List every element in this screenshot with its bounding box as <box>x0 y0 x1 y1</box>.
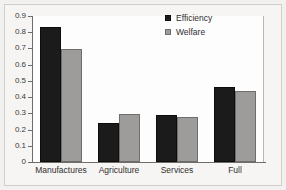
bar-welfare[interactable] <box>177 117 198 162</box>
legend-swatch-efficiency-icon <box>165 15 171 21</box>
legend-swatch-welfare-icon <box>165 29 171 35</box>
y-axis-tick-label: 0.2 <box>15 124 26 135</box>
bar-efficiency[interactable] <box>156 115 177 162</box>
plot-region <box>32 16 264 162</box>
chart-figure-frame: 00.10.20.30.40.50.60.70.80.9 Manufacture… <box>4 4 282 186</box>
category-label: Services <box>148 165 206 176</box>
y-axis-tick-label: 0.6 <box>15 59 26 70</box>
chart-legend: Efficiency Welfare <box>165 12 212 40</box>
y-axis-tick-mark <box>28 16 32 17</box>
y-axis-tick-label: 0.3 <box>15 107 26 118</box>
y-axis-tick-mark <box>28 146 32 147</box>
y-axis-tick-mark <box>28 32 32 33</box>
legend-item-welfare[interactable]: Welfare <box>165 26 212 38</box>
bar-welfare[interactable] <box>119 114 140 162</box>
bar-efficiency[interactable] <box>98 123 119 162</box>
bar-efficiency[interactable] <box>214 87 235 162</box>
y-axis-tick-mark <box>28 130 32 131</box>
legend-item-efficiency[interactable]: Efficiency <box>165 12 212 24</box>
category-label: Manufactures <box>32 165 90 176</box>
bar-welfare[interactable] <box>235 91 256 162</box>
bar-group <box>98 16 140 162</box>
bar-efficiency[interactable] <box>40 27 61 162</box>
bar-group <box>214 16 256 162</box>
y-axis-tick-mark <box>28 65 32 66</box>
y-axis-tick-mark <box>28 113 32 114</box>
y-axis-tick-mark <box>28 48 32 49</box>
x-axis-line <box>32 162 266 163</box>
y-axis-tick-label: 0.4 <box>15 91 26 102</box>
y-axis-tick-label: 0.5 <box>15 75 26 86</box>
category-label: Full <box>206 165 264 176</box>
y-axis-tick-label: 0.9 <box>15 10 26 21</box>
y-axis-tick-label: 0.1 <box>15 140 26 151</box>
legend-label-efficiency: Efficiency <box>176 13 212 24</box>
y-axis-tick-label: 0.8 <box>15 26 26 37</box>
bar-welfare[interactable] <box>61 49 82 162</box>
legend-label-welfare: Welfare <box>176 27 205 38</box>
category-label: Agriculture <box>90 165 148 176</box>
y-axis-tick-label: 0 <box>22 156 26 167</box>
y-axis-tick-mark <box>28 97 32 98</box>
y-axis-tick-label: 0.7 <box>15 42 26 53</box>
y-axis-tick-mark <box>28 81 32 82</box>
y-axis-tick-mark <box>28 162 32 163</box>
bar-group <box>40 16 82 162</box>
